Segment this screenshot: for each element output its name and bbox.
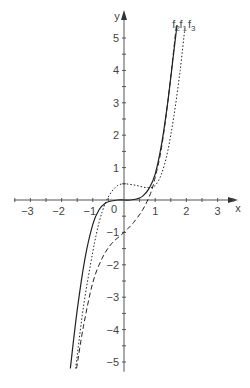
- curve-f2: [77, 25, 177, 368]
- y-tick-label: 4: [113, 64, 119, 76]
- y-axis-label: y: [114, 10, 120, 22]
- y-axis-arrow-icon: [121, 10, 127, 20]
- legend-f3: f3: [188, 18, 196, 33]
- origin-label: 0: [111, 203, 117, 215]
- axes: [14, 10, 238, 372]
- function-plot: −3−2−1123−5−4−3−2−1123450xyf2f1f3: [0, 0, 250, 388]
- x-tick-label: 3: [215, 205, 221, 217]
- y-tick-label: −4: [106, 324, 119, 336]
- curve-f3: [76, 28, 185, 368]
- x-tick-label: 1: [152, 205, 158, 217]
- x-tick-label: 2: [183, 205, 189, 217]
- x-tick-label: −1: [84, 205, 97, 217]
- labels: −3−2−1123−5−4−3−2−1123450xyf2f1f3: [21, 10, 241, 368]
- y-tick-label: 5: [113, 32, 119, 44]
- x-axis-label: x: [235, 202, 241, 214]
- legend-f1: f1: [180, 18, 188, 33]
- y-tick-label: −5: [106, 356, 119, 368]
- curves: [70, 25, 185, 368]
- x-tick-label: −2: [52, 205, 65, 217]
- y-tick-label: −2: [106, 259, 119, 271]
- x-tick-label: −3: [21, 205, 34, 217]
- y-tick-label: 2: [113, 129, 119, 141]
- y-tick-label: 3: [113, 97, 119, 109]
- y-tick-label: −1: [106, 226, 119, 238]
- y-tick-label: 1: [113, 162, 119, 174]
- y-tick-label: −3: [106, 291, 119, 303]
